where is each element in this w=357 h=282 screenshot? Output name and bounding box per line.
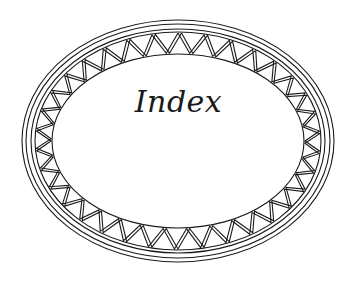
zigzag-band [36,33,319,249]
ring-2 [26,24,330,258]
ring-4 [35,32,321,250]
ring-1 [22,20,334,262]
oval-ornamental-frame [0,0,357,282]
outer-rings [22,20,334,262]
zigzag-line-2 [36,33,319,249]
index-title: Index [0,84,357,119]
zigzag-line-1 [37,33,320,249]
ring-3 [31,29,325,253]
band-inner-edge [52,54,304,228]
